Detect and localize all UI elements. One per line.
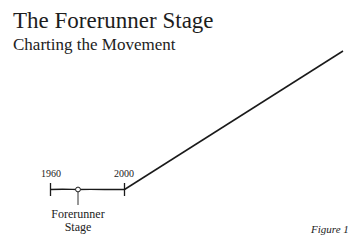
forerunner-marker-icon <box>76 187 81 192</box>
figure-caption: Figure 1 <box>311 223 349 236</box>
page: The Forerunner Stage Charting the Moveme… <box>0 0 364 245</box>
growth-line <box>125 51 344 190</box>
stage-label-line-2: Stage <box>44 221 112 234</box>
forerunner-stage-label: Forerunner Stage <box>44 208 112 234</box>
year-label-2000: 2000 <box>114 168 134 180</box>
year-label-1960: 1960 <box>41 168 61 180</box>
